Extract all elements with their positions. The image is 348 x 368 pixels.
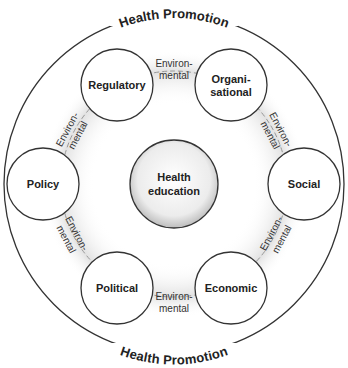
center-label-line1: Health [157, 171, 191, 183]
svg-text:Policy: Policy [27, 178, 60, 190]
node-political: Political [81, 252, 153, 324]
node-regulatory: Regulatory [81, 49, 153, 121]
svg-text:Political: Political [96, 282, 138, 294]
svg-text:Environ-: Environ- [155, 58, 192, 69]
svg-text:Regulatory: Regulatory [88, 79, 146, 91]
svg-text:Organi-: Organi- [211, 73, 250, 85]
center-label-line2: education [148, 185, 200, 197]
connector-top: Environ- mental [155, 58, 192, 81]
svg-text:mental: mental [159, 70, 189, 81]
node-policy: Policy [7, 148, 79, 220]
svg-text:mental: mental [159, 303, 189, 314]
svg-text:Economic: Economic [205, 282, 258, 294]
node-organisational: Organi- sational [195, 49, 267, 121]
connector-bottom: Environ- mental [155, 291, 192, 314]
health-education-circle [130, 140, 218, 228]
node-social: Social [268, 148, 340, 220]
svg-text:Environ-: Environ- [155, 291, 192, 302]
svg-text:sational: sational [210, 86, 252, 98]
node-economic: Economic [195, 252, 267, 324]
svg-text:Social: Social [288, 178, 320, 190]
health-promotion-diagram: Health Promotion Health Promotion Health… [0, 0, 348, 368]
